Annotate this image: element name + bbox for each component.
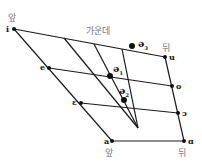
vertex-label-epsilon: ɛ — [72, 98, 77, 106]
schwa-1-subscript: 1 — [119, 70, 122, 76]
grid-lines — [14, 29, 184, 141]
vowel-diagram — [0, 0, 202, 165]
schwa-3-label: ə3 — [138, 39, 148, 51]
vertex-label-e: e — [40, 63, 45, 71]
dot-alpha — [182, 139, 186, 143]
dot-a — [110, 139, 114, 143]
label-front-top: 앞 — [8, 14, 16, 23]
schwa-1-label: ə1 — [113, 64, 123, 76]
vertex-label-i: i — [6, 25, 9, 33]
vertex-label-alpha: ɑ — [188, 137, 194, 145]
schwa-2-subscript: 2 — [125, 92, 128, 98]
dot-e — [47, 66, 51, 70]
vertex-label-u: u — [169, 53, 175, 61]
label-back-bottom: 뒤 — [178, 149, 186, 158]
dot-schwa-3 — [129, 43, 135, 49]
dot-o — [170, 84, 174, 88]
line-central-1 — [64, 38, 138, 128]
line-central-2 — [94, 44, 138, 128]
line-front-edge — [14, 29, 112, 141]
label-central: 가운데 — [86, 27, 110, 36]
vertex-label-open-o: ɔ — [182, 109, 187, 117]
dot-epsilon — [79, 101, 83, 105]
dot-open-o — [176, 111, 180, 115]
schwa-3-subscript: 3 — [144, 45, 147, 51]
line-back-edge — [165, 57, 184, 141]
schwa-2-label: ə2 — [119, 86, 129, 98]
dot-u — [163, 55, 167, 59]
vertex-label-o: o — [176, 82, 181, 90]
label-front-bottom: 앞 — [105, 149, 113, 158]
dot-i — [12, 27, 16, 31]
vertex-label-a: a — [104, 137, 109, 145]
